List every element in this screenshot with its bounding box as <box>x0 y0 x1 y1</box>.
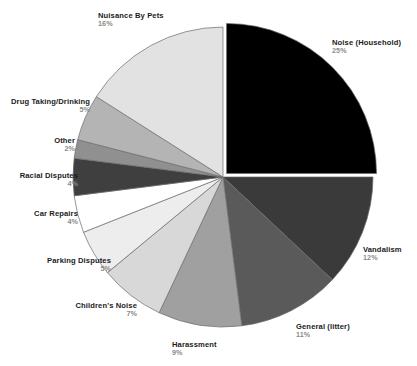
pie-slice-label: Racial Disputes4% <box>20 172 78 188</box>
pie-slice-label: Children's Noise7% <box>75 302 137 318</box>
pie-slice-label-percent: 11% <box>296 331 350 339</box>
pie-slice-label-percent: 2% <box>54 145 75 153</box>
pie-slice-label: Drug Taking/Drinking5% <box>11 98 90 114</box>
pie-slice-label: General (litter)11% <box>296 323 350 339</box>
pie-slice-label-name: Drug Taking/Drinking <box>11 98 90 106</box>
pie-slice-label-percent: 12% <box>363 254 402 262</box>
pie-slice-label-percent: 5% <box>11 106 90 114</box>
pie-slice-label: Car Repairs4% <box>34 210 78 226</box>
pie-chart: Noise (Household)25%Vandalism12%General … <box>0 0 417 366</box>
pie-slice-label: Noise (Household)25% <box>332 39 401 55</box>
pie-slice-label-percent: 4% <box>34 218 78 226</box>
pie-slice-label-percent: 4% <box>20 180 78 188</box>
pie-slice-label-percent: 9% <box>172 349 217 357</box>
pie-slice-label-percent: 25% <box>332 47 401 55</box>
pie-slice-label-percent: 5% <box>47 265 111 273</box>
pie-slice-label-percent: 16% <box>98 20 164 28</box>
pie-slice-label-percent: 7% <box>75 310 137 318</box>
pie-slice-label: Vandalism12% <box>363 246 402 262</box>
pie-slice-group <box>73 23 377 327</box>
pie-slice-label: Harassment9% <box>172 341 217 357</box>
pie-slice-label: Parking Disputes5% <box>47 257 111 273</box>
pie-slice-label: Nuisance By Pets16% <box>98 12 164 28</box>
pie-slice-label: Other2% <box>54 137 75 153</box>
